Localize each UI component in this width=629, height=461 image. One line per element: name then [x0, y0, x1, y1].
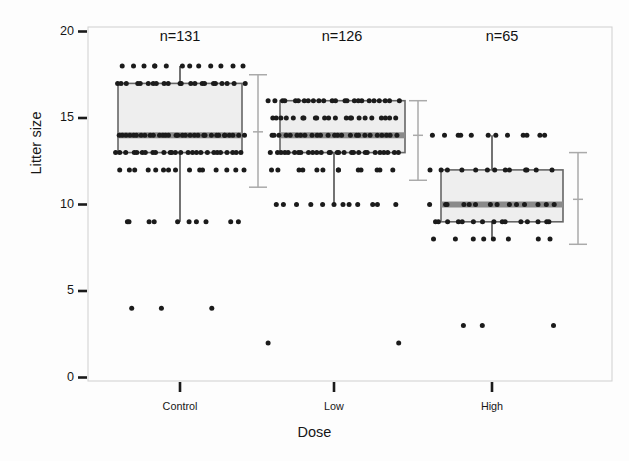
data-point [218, 150, 223, 155]
data-point [187, 64, 192, 69]
data-point [359, 98, 364, 103]
data-point [341, 202, 346, 207]
data-point [175, 133, 180, 138]
annotation-n-low: n=126 [272, 28, 412, 44]
data-point [471, 219, 476, 224]
data-point [233, 167, 238, 172]
data-point [345, 98, 350, 103]
data-point [238, 150, 243, 155]
boxplot-group-low [266, 98, 427, 345]
boxplot-group-high [427, 133, 587, 328]
data-point [445, 219, 450, 224]
data-point [397, 98, 402, 103]
data-point [387, 116, 392, 121]
data-point [342, 150, 347, 155]
data-point [173, 150, 178, 155]
data-point [542, 133, 547, 138]
data-point [488, 202, 493, 207]
data-point [467, 202, 472, 207]
data-point [209, 133, 214, 138]
data-point [493, 133, 498, 138]
data-point [183, 133, 188, 138]
y-tick-label-10: 10 [38, 197, 74, 211]
data-point [278, 116, 283, 121]
data-point [356, 150, 361, 155]
data-point [480, 219, 485, 224]
data-point [127, 167, 132, 172]
data-point [481, 237, 486, 242]
data-point [218, 64, 223, 69]
data-point [473, 167, 478, 172]
data-point [311, 98, 316, 103]
data-point [153, 167, 158, 172]
data-point [359, 167, 364, 172]
data-point [119, 81, 124, 86]
data-point [266, 98, 271, 103]
data-point [179, 81, 184, 86]
data-point [143, 150, 148, 155]
data-point [536, 202, 541, 207]
data-point [159, 306, 164, 311]
data-point [222, 133, 227, 138]
data-point [192, 81, 197, 86]
data-point [187, 219, 192, 224]
data-point [208, 64, 213, 69]
data-point [234, 150, 239, 155]
data-point [298, 133, 303, 138]
data-point [194, 219, 199, 224]
data-point [537, 133, 542, 138]
data-point [377, 98, 382, 103]
data-point [225, 81, 230, 86]
data-point [356, 133, 361, 138]
data-point [282, 98, 287, 103]
data-point [188, 133, 193, 138]
x-tick-label-low: Low [274, 400, 394, 412]
data-point [154, 81, 159, 86]
data-point [505, 133, 510, 138]
data-point [461, 202, 466, 207]
data-point [372, 98, 377, 103]
data-point [536, 237, 541, 242]
data-point [166, 81, 171, 86]
data-point [339, 133, 344, 138]
data-point [333, 98, 338, 103]
data-point [524, 133, 529, 138]
data-point [166, 133, 171, 138]
data-point [164, 64, 169, 69]
x-tick-label-control: Control [120, 400, 240, 412]
data-point [269, 167, 274, 172]
data-point [151, 133, 156, 138]
data-point [318, 133, 323, 138]
data-point [320, 202, 325, 207]
boxplot-group-control [113, 64, 267, 311]
y-tick-label-20: 20 [38, 24, 74, 38]
data-point [336, 150, 341, 155]
data-point [336, 167, 341, 172]
data-point [308, 202, 313, 207]
data-point [552, 202, 557, 207]
data-point [379, 133, 384, 138]
data-point [243, 81, 248, 86]
data-point [272, 98, 277, 103]
data-point [205, 150, 210, 155]
data-point [213, 81, 218, 86]
data-point [266, 340, 271, 345]
data-point [355, 202, 360, 207]
data-point [375, 133, 380, 138]
data-point [186, 150, 191, 155]
data-point [314, 167, 319, 172]
data-point [363, 116, 368, 121]
data-point [485, 167, 490, 172]
y-tick-label-0: 0 [38, 370, 74, 384]
data-point [120, 64, 125, 69]
data-point [442, 133, 447, 138]
data-point [439, 167, 444, 172]
data-point [173, 167, 178, 172]
y-tick-label-15: 15 [38, 110, 74, 124]
annotation-n-control: n=131 [110, 28, 250, 44]
data-point [236, 219, 241, 224]
data-point [132, 167, 137, 172]
data-point [326, 133, 331, 138]
x-axis-title: Dose [0, 424, 629, 440]
data-point [123, 150, 128, 155]
